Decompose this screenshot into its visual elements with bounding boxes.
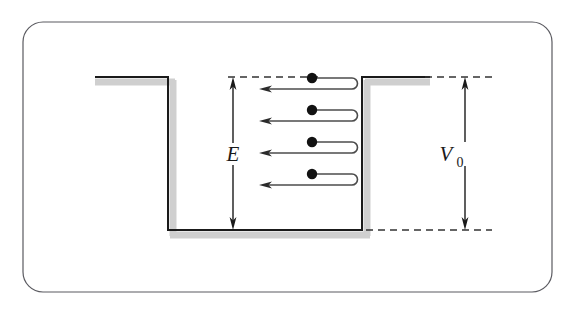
energy-measure-E: E [225,77,242,230]
barrier-label-V: V [440,142,455,166]
particle-dot-3 [307,137,317,147]
energy-label-E: E [226,142,240,166]
well-shadow-group [95,80,430,236]
particle-track-2 [259,105,358,125]
particle-dot-4 [307,169,317,179]
particle-dot-2 [307,105,317,115]
potential-well-diagram: E V 0 [0,0,575,313]
particle-trajectories-group [259,73,358,189]
barrier-height-measure-V0: V 0 [440,77,474,230]
particle-track-1 [259,73,357,93]
particle-track-4 [259,169,358,189]
barrier-label-V-subscript: 0 [457,155,464,170]
particle-track-3 [259,137,358,157]
particle-dot-1 [307,73,317,83]
figure-container: E V 0 [0,0,575,313]
